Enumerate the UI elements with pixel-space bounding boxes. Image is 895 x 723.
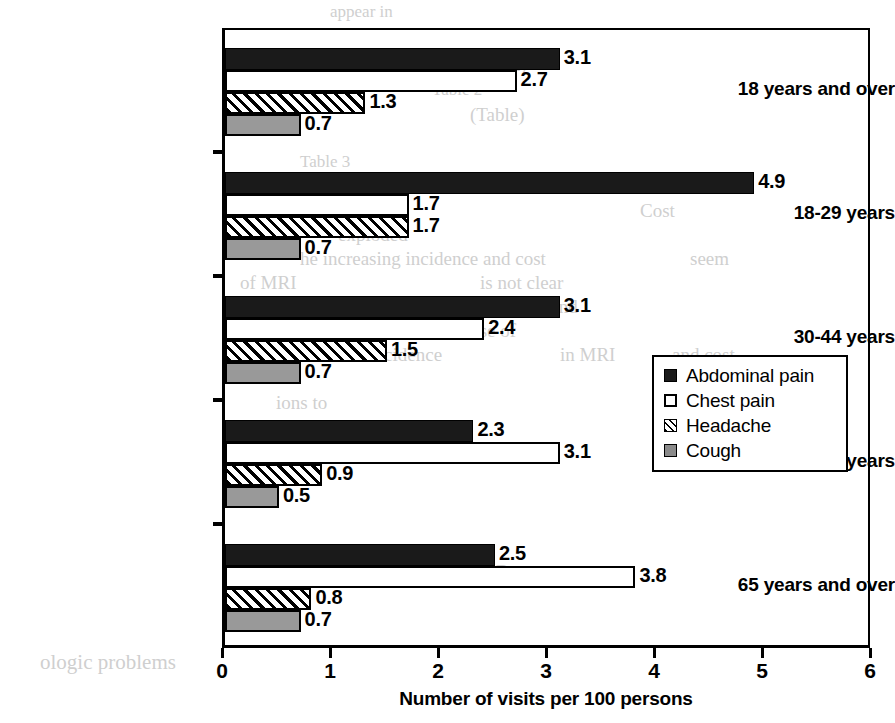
bar-value-label: 0.9 [326,462,353,485]
x-axis-tick [329,648,332,658]
bar-value-label: 2.4 [488,316,515,339]
legend-label: Abdominal pain [686,365,814,387]
bar-chest-pain [225,194,409,216]
bar-value-label: 0.7 [305,360,332,383]
bar-cough [225,238,301,260]
x-axis-tick [221,648,224,658]
bar-chest-pain [225,318,484,340]
legend-item[interactable]: Cough [664,438,838,463]
legend-item[interactable]: Abdominal pain [664,363,838,388]
bar-headache [225,92,365,114]
x-axis-tick-label: 2 [432,659,444,683]
bar-row [225,544,868,566]
bar-value-label: 1.7 [413,192,440,215]
bar-cough [225,486,279,508]
bar-chest-pain [225,442,560,464]
legend-swatch-icon [664,444,677,457]
bar-value-label: 2.3 [477,418,504,441]
legend-label: Headache [686,415,771,437]
bar-value-label: 3.1 [564,294,591,317]
bar-chest-pain [225,566,635,588]
x-axis-tick-label: 4 [648,659,660,683]
legend-swatch-icon [664,419,677,432]
legend-item[interactable]: Headache [664,413,838,438]
bar-value-label: 0.7 [305,608,332,631]
bar-value-label: 2.5 [499,542,526,565]
bar-value-label: 2.7 [521,68,548,91]
grouped-bar-chart: 18 years and over18-29 years30-44 years4… [0,0,895,723]
bar-value-label: 1.5 [391,338,418,361]
bar-value-label: 0.7 [305,236,332,259]
bar-value-label: 3.8 [639,564,666,587]
bar-row [225,486,868,508]
legend-swatch-icon [664,394,677,407]
x-axis-title: Number of visits per 100 persons [222,688,870,710]
x-axis-tick [761,648,764,658]
bar-cough [225,362,301,384]
bar-cough [225,114,301,136]
x-axis-tick-label: 1 [324,659,336,683]
bar-headache [225,588,311,610]
x-axis-tick [545,648,548,658]
category-tick [213,398,222,402]
bar-abdominal-pain [225,420,473,442]
legend-label: Chest pain [686,390,775,412]
bar-group [225,30,868,154]
category-tick [213,150,222,154]
bar-abdominal-pain [225,544,495,566]
legend-label: Cough [686,440,741,462]
bar-value-label: 0.5 [283,484,310,507]
bar-row [225,318,868,340]
x-axis-tick-label: 3 [540,659,552,683]
bar-value-label: 1.3 [369,90,396,113]
x-axis-tick [437,648,440,658]
x-axis-tick-label: 0 [216,659,228,683]
bar-row [225,296,868,318]
x-axis-tick-label: 6 [864,659,876,683]
bar-abdominal-pain [225,48,560,70]
bar-abdominal-pain [225,172,754,194]
bar-value-label: 4.9 [758,170,785,193]
bar-value-label: 3.1 [564,440,591,463]
x-axis-tick [653,648,656,658]
legend-item[interactable]: Chest pain [664,388,838,413]
bar-row [225,194,868,216]
bar-value-label: 0.8 [315,586,342,609]
bar-value-label: 3.1 [564,46,591,69]
legend-swatch-icon [664,369,677,382]
bar-value-label: 0.7 [305,112,332,135]
bar-value-label: 1.7 [413,214,440,237]
x-axis-tick [869,648,872,658]
category-tick [213,522,222,526]
bar-cough [225,610,301,632]
legend: Abdominal painChest painHeadacheCough [652,355,848,472]
category-tick [213,274,222,278]
x-axis-tick-label: 5 [756,659,768,683]
